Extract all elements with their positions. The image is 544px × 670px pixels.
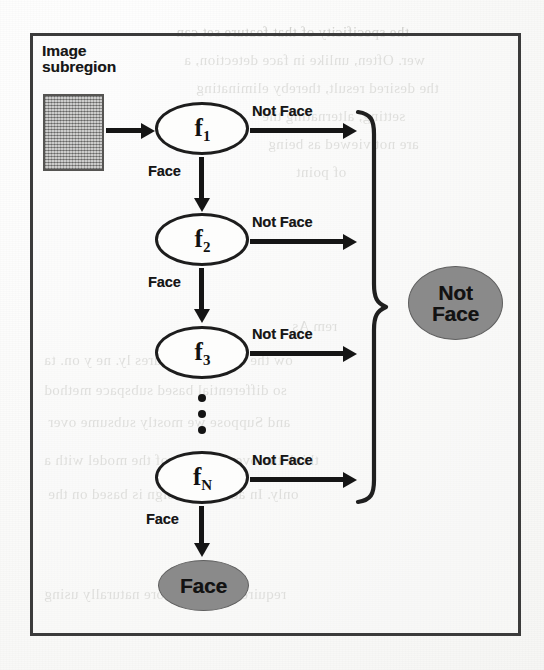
edge-label-stage1-reject: Not Face [252,103,312,119]
figure-page: the specificity of that feature set can … [0,0,544,670]
terminal-not-face-label: Not Face [432,282,479,324]
ellipsis-dot [198,426,206,434]
stage-node-f3-label: f3 [195,339,210,364]
stage-node-f2-label: f2 [195,226,210,251]
stage-node-fN: fN [155,451,249,504]
ellipsis-dot [198,410,206,418]
arrow-stage2-reject [250,239,344,244]
stage-node-f3: f3 [155,326,249,379]
terminal-face: Face [158,560,249,611]
edge-label-stageN-accept: Face [146,511,179,527]
edge-label-stage1-accept: Face [148,163,181,179]
arrow-stage2-accept [199,268,204,310]
terminal-not-face: Not Face [408,266,503,340]
stage-node-f1: f1 [155,102,249,155]
reject-branch-brace [352,108,392,510]
arrow-stage3-reject [250,351,344,356]
image-subregion-label-line2: subregion [42,59,172,75]
arrow-stageN-reject [250,477,344,482]
ellipsis-dots [198,394,206,442]
edge-label-stageN-reject: Not Face [252,452,312,468]
edge-label-stage2-accept: Face [148,274,181,290]
edge-label-stage3-reject: Not Face [252,326,312,342]
image-subregion-swatch [43,94,104,171]
stage-node-f1-label: f1 [195,115,210,140]
image-subregion-label: Image subregion [42,43,172,76]
arrow-stage1-accept [199,157,204,199]
arrow-stageN-accept [199,506,204,544]
brace-icon [352,108,392,506]
terminal-face-label: Face [180,575,227,596]
ellipsis-dot [198,394,206,402]
arrow-input-to-stage1 [106,128,142,133]
stage-node-fN-label: fN [193,464,211,489]
stage-node-f2: f2 [155,213,249,266]
image-subregion-label-line1: Image [42,43,172,59]
arrow-stage1-reject [250,128,344,133]
edge-label-stage2-reject: Not Face [252,214,312,230]
